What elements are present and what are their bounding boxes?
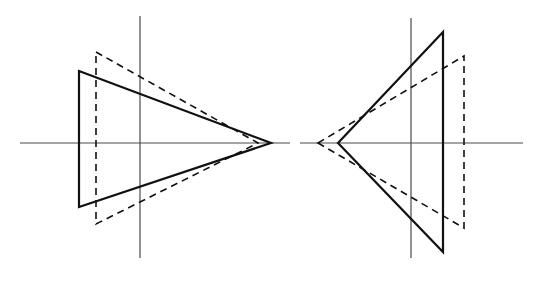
figure-canvas (0, 0, 545, 282)
line-drawing (0, 0, 545, 282)
